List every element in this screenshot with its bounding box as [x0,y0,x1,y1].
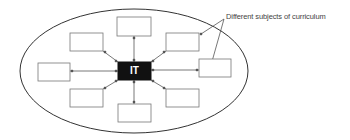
subject-box-lower-right [166,89,199,107]
annotation-label: Different subjects of curriculum [226,12,326,21]
subject-box-right [199,59,231,77]
subject-box-left [38,63,70,81]
subject-box-lower-left [70,89,103,107]
subject-box-bottom [118,104,151,122]
subject-box-upper-left [70,33,103,51]
it-label: IT [118,62,151,80]
subject-box-top [117,17,151,36]
diagram-canvas [0,0,350,140]
subject-box-upper-right [166,33,199,51]
